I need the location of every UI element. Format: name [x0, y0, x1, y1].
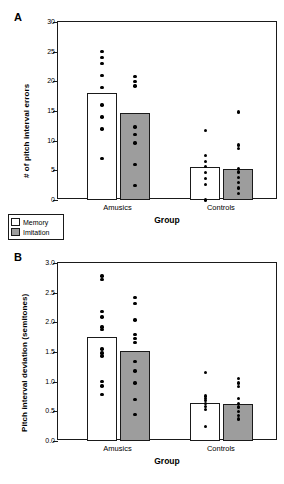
data-point [237, 417, 240, 420]
data-point [100, 115, 103, 118]
data-point [100, 310, 103, 313]
data-point [133, 80, 136, 83]
data-point [133, 337, 136, 340]
xtick-label-controls: Controls [207, 203, 235, 212]
ytick-label: 20 [47, 76, 55, 85]
panel-a-y-axis-title: # of pitch interval errors [22, 84, 31, 178]
bar-amusics-memory [87, 93, 117, 200]
data-point [100, 347, 103, 350]
data-point [133, 296, 136, 299]
legend-label-imitation: Imitation [23, 228, 49, 237]
data-point [237, 397, 240, 400]
legend-swatch-imitation [11, 228, 20, 236]
data-point [204, 160, 207, 163]
panel-b-plot-area: 0.00.51.01.52.02.53.0 [57, 262, 277, 440]
data-point [100, 384, 103, 387]
data-point [100, 157, 103, 160]
data-point [133, 318, 136, 321]
data-point [204, 129, 207, 132]
bar-amusics-imitation [120, 351, 150, 441]
data-point [237, 170, 240, 173]
ytick-label: 0.5 [45, 406, 55, 415]
data-point [100, 328, 103, 331]
data-point [133, 302, 136, 305]
legend-swatch-memory [11, 218, 20, 226]
panel-b: B Pitch interval deviation (semitones) 0… [0, 242, 284, 484]
figure: A # of pitch interval errors 05101520253… [0, 0, 284, 484]
data-point [100, 278, 103, 281]
ytick-label: 1.5 [45, 347, 55, 356]
legend-label-memory: Memory [23, 218, 48, 227]
data-point [133, 75, 136, 78]
legend: Memory Imitation [8, 214, 64, 240]
data-point [100, 74, 103, 77]
data-point [133, 369, 136, 372]
ytick-label: 30 [47, 17, 55, 26]
data-point [133, 125, 136, 128]
data-point [100, 103, 103, 106]
data-point [237, 377, 240, 380]
xtick-label-amusics: Amusics [103, 203, 131, 212]
data-point [133, 141, 136, 144]
data-point [100, 62, 103, 65]
data-point [204, 371, 207, 374]
ytick-label: 1.0 [45, 377, 55, 386]
panel-a-label: A [14, 12, 22, 23]
data-point [133, 381, 136, 384]
data-point [204, 198, 207, 201]
ytick-label: 2.0 [45, 317, 55, 326]
data-point [100, 56, 103, 59]
legend-item-memory: Memory [11, 217, 60, 227]
ytick-label: 2.5 [45, 288, 55, 297]
panel-b-x-axis-title: Group [154, 456, 180, 466]
data-point [133, 360, 136, 363]
legend-item-imitation: Imitation [11, 227, 60, 237]
data-point [237, 110, 240, 113]
ytick-label: 15 [47, 106, 55, 115]
data-point [133, 333, 136, 336]
data-point [100, 315, 103, 318]
ytick-label: 0 [51, 195, 55, 204]
panel-b-label: B [14, 252, 22, 263]
data-point [237, 186, 240, 189]
xtick-label-amusics: Amusics [103, 444, 131, 453]
panel-a: A # of pitch interval errors 05101520253… [0, 0, 284, 242]
panel-b-y-axis-title: Pitch interval deviation (semitones) [20, 294, 29, 432]
data-point [133, 398, 136, 401]
ytick-label: 0.0 [45, 436, 55, 445]
data-point [133, 163, 136, 166]
data-point [237, 410, 240, 413]
data-point [204, 154, 207, 157]
ytick-label: 25 [47, 47, 55, 56]
data-point [100, 127, 103, 130]
data-point [237, 405, 240, 408]
ytick-label: 10 [47, 136, 55, 145]
xtick-label-controls: Controls [207, 444, 235, 453]
ytick-label: 3.0 [45, 258, 55, 267]
data-point [237, 385, 240, 388]
ytick-label: 5 [51, 165, 55, 174]
data-point [100, 86, 103, 89]
data-point [100, 354, 103, 357]
data-point [133, 413, 136, 416]
data-point [237, 147, 240, 150]
panel-a-x-axis-title: Group [154, 215, 180, 225]
data-point [100, 50, 103, 53]
data-point [133, 341, 136, 344]
data-point [133, 84, 136, 87]
panel-a-plot-area: 051015202530 [57, 21, 277, 199]
